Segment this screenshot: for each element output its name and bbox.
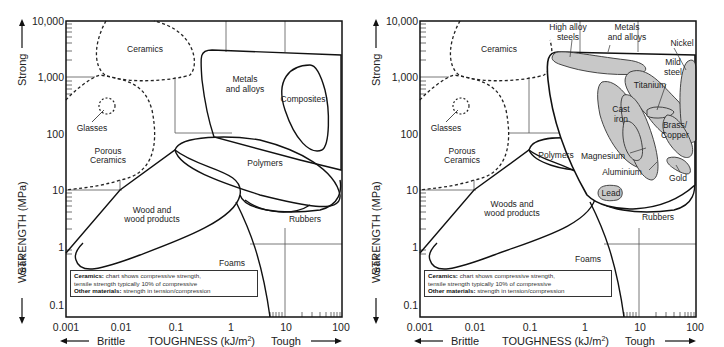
- note-line-2: tensile strength typically 10% of compre…: [74, 280, 254, 288]
- y-tick-1000: 1,000: [392, 71, 418, 83]
- x-tough-label: Tough: [625, 335, 655, 347]
- label-high-alloy-2: steels: [557, 32, 579, 42]
- label-foams: Foams: [219, 258, 245, 268]
- label-polymers: Polymers: [538, 150, 573, 160]
- right-chart: Ceramics Glasses Porous Ceramics Polymer…: [362, 0, 724, 347]
- x-tick-0.001: 0.001: [53, 321, 79, 333]
- note-other-bold: Other materials:: [74, 287, 121, 294]
- x-axis-title: TOUGHNESS (kJ/m2): [148, 335, 255, 347]
- x-tick-100: 100: [332, 321, 350, 333]
- x-brittle-label: Brittle: [97, 335, 125, 347]
- brittle-arrow-icon: [414, 338, 443, 344]
- label-wood-2: wood products: [123, 214, 179, 224]
- label-gold: Gold: [669, 173, 687, 183]
- note-ceramics-text: chart shows compressive strength,: [104, 272, 201, 279]
- brittle-arrow-icon: [60, 338, 89, 344]
- label-brass: Brass/: [663, 120, 688, 130]
- label-ceramics: Ceramics: [481, 44, 517, 54]
- tough-arrow-icon: [665, 338, 696, 344]
- x-tick-0.01: 0.01: [465, 321, 486, 333]
- tough-arrow-icon: [311, 338, 342, 344]
- label-porous-2: Ceramics: [90, 155, 126, 165]
- label-ceramics: Ceramics: [127, 44, 163, 54]
- rubbers-inner: [245, 200, 310, 212]
- label-aluminium: Aluminium: [602, 167, 642, 177]
- label-metals-2: and alloys: [226, 84, 264, 94]
- x-tick-0.1: 0.1: [169, 321, 184, 333]
- weak-arrow-icon: [373, 298, 379, 324]
- polymers-region: [175, 137, 340, 207]
- y-tick-1000: 1,000: [38, 71, 64, 83]
- label-porous-2: Ceramics: [444, 155, 480, 165]
- note-ceramics-text: chart shows compressive strength,: [458, 272, 555, 279]
- weak-arrow-icon: [19, 298, 25, 324]
- note-other-bold: Other materials:: [428, 287, 475, 294]
- y-tick-0.1: 0.1: [403, 299, 418, 311]
- y-tick-1: 1: [58, 241, 64, 253]
- left-chart: Ceramics Glasses Porous Ceramics Metals …: [0, 0, 362, 347]
- glasses-region: [92, 98, 115, 122]
- label-lead: Lead: [602, 188, 621, 198]
- x-tough-label: Tough: [271, 335, 301, 347]
- label-rubbers: Rubbers: [289, 214, 321, 224]
- y-tick-10000: 10,000: [32, 15, 64, 27]
- label-magnesium: Magnesium: [581, 151, 625, 161]
- x-axis-title: TOUGHNESS (kJ/m2): [502, 335, 609, 347]
- note-ceramics-bold: Ceramics:: [428, 272, 458, 279]
- y-tick-10: 10: [406, 184, 418, 196]
- x-brittle-label: Brittle: [451, 335, 479, 347]
- label-metals-1: Metals: [614, 22, 639, 32]
- x-tick-1: 1: [582, 321, 588, 333]
- label-woods-2: wood products: [483, 208, 539, 218]
- x-tick-0.1: 0.1: [523, 321, 538, 333]
- label-mild-2: steel: [664, 67, 682, 77]
- label-copper: Copper: [661, 130, 689, 140]
- y-tick-100: 100: [46, 128, 64, 140]
- glasses-region: [446, 98, 469, 122]
- note-box: Ceramics: chart shows compressive streng…: [424, 270, 612, 297]
- composites-region: [282, 65, 329, 151]
- label-rubbers: Rubbers: [642, 212, 674, 222]
- label-metals-2: and alloys: [608, 32, 646, 42]
- x-tick-1: 1: [228, 321, 234, 333]
- note-box: Ceramics: chart shows compressive streng…: [70, 270, 258, 297]
- x-tick-0.001: 0.001: [407, 321, 433, 333]
- strong-arrow-icon: [19, 19, 25, 48]
- label-cast-2: iron: [614, 114, 628, 124]
- y-tick-10000: 10,000: [386, 15, 418, 27]
- x-tick-10: 10: [280, 321, 292, 333]
- label-composites: Composites: [281, 94, 326, 104]
- y-tick-0.1: 0.1: [49, 299, 64, 311]
- y-strong-label: Strong: [16, 54, 28, 86]
- y-strong-label: Strong: [370, 54, 382, 86]
- note-other-text: strength in tension/compression: [121, 287, 210, 294]
- y-weak-label: Weak: [16, 255, 28, 283]
- x-tick-100: 100: [686, 321, 704, 333]
- x-tick-0.01: 0.01: [111, 321, 132, 333]
- strong-arrow-icon: [373, 19, 379, 48]
- label-foams: Foams: [575, 254, 601, 264]
- label-cast-1: Cast: [612, 104, 630, 114]
- y-tick-1: 1: [412, 241, 418, 253]
- label-metals-1: Metals: [232, 74, 257, 84]
- label-titanium: Titanium: [634, 80, 666, 90]
- label-mild-1: Mild: [665, 57, 681, 67]
- label-nickel: Nickel: [670, 38, 693, 48]
- y-tick-100: 100: [400, 128, 418, 140]
- y-weak-label: Weak: [370, 255, 382, 283]
- y-tick-10: 10: [52, 184, 64, 196]
- note-other-text: strength in tension/compression: [475, 287, 564, 294]
- label-high-alloy-1: High alloy: [549, 22, 587, 32]
- label-glasses: Glasses: [77, 123, 108, 133]
- metals-region: [201, 50, 341, 170]
- label-glasses: Glasses: [431, 123, 462, 133]
- label-polymers: Polymers: [247, 158, 282, 168]
- note-ceramics-bold: Ceramics:: [74, 272, 104, 279]
- note-line-2: tensile strength typically 10% of compre…: [428, 280, 608, 288]
- x-tick-10: 10: [634, 321, 646, 333]
